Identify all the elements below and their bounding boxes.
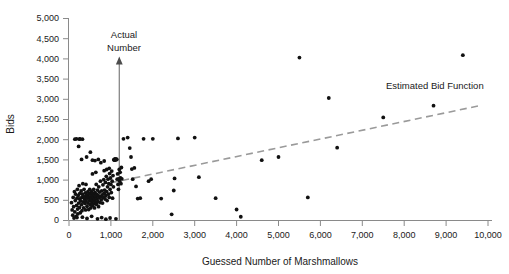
scatter-point (131, 177, 135, 181)
y-tick-label: 3,000 (36, 94, 59, 104)
y-tick-label: 4,000 (36, 54, 59, 64)
y-tick-label: 2,000 (36, 135, 59, 145)
scatter-point (306, 195, 310, 199)
scatter-point (381, 115, 385, 119)
scatter-point (277, 155, 281, 159)
x-axis-tick-marks (69, 221, 488, 227)
scatter-point (104, 181, 108, 185)
actual-number-label-line-1: Actual (111, 29, 137, 40)
scatter-point (97, 185, 101, 189)
scatter-point (93, 206, 97, 210)
scatter-point (239, 215, 243, 219)
scatter-point (85, 155, 89, 159)
scatter-point (102, 169, 106, 173)
y-tick-label: 500 (44, 195, 59, 205)
x-tick-label: 5,000 (267, 230, 290, 240)
y-tick-label: 3,500 (36, 74, 59, 84)
scatter-point (111, 174, 115, 178)
marshmallow-bids-scatter-chart: 05001,0001,5002,0002,5003,0003,5004,0004… (0, 0, 509, 274)
scatter-point (110, 169, 114, 173)
scatter-point (104, 217, 108, 221)
scatter-point (82, 187, 86, 191)
y-tick-label: 2,500 (36, 114, 59, 124)
scatter-point (197, 175, 201, 179)
scatter-point (90, 214, 94, 218)
scatter-point (151, 137, 155, 141)
scatter-point (118, 170, 122, 174)
x-tick-label: 3,000 (183, 230, 206, 240)
scatter-point (120, 177, 124, 181)
scatter-point (102, 159, 106, 163)
scatter-point (461, 53, 465, 57)
actual-number-label-line-2: Number (107, 42, 141, 53)
scatter-point (119, 166, 123, 170)
scatter-point (159, 197, 163, 201)
y-tick-label: 5,000 (36, 13, 59, 23)
x-tick-label: 9,000 (435, 230, 458, 240)
scatter-point (108, 216, 112, 220)
scatter-point (119, 182, 123, 186)
scatter-point (138, 196, 142, 200)
scatter-point (298, 56, 302, 60)
scatter-point (193, 136, 197, 140)
x-axis-tick-labels: 01,0002,0003,0004,0005,0006,0007,0008,00… (66, 230, 501, 240)
scatter-point (126, 136, 130, 140)
scatter-point (81, 215, 85, 219)
estimated-bid-function-line (111, 105, 482, 183)
scatter-point (93, 159, 97, 163)
scatter-point (101, 201, 105, 205)
scatter-point (96, 217, 100, 221)
scatter-point (173, 176, 177, 180)
scatter-point (92, 187, 96, 191)
scatter-point (129, 155, 133, 159)
scatter-point (117, 187, 121, 191)
scatter-point (77, 184, 81, 188)
scatter-point (108, 187, 112, 191)
scatter-point (107, 166, 111, 170)
y-axis-tick-marks (63, 19, 69, 221)
scatter-point (170, 212, 174, 216)
x-tick-label: 6,000 (309, 230, 332, 240)
x-tick-label: 7,000 (351, 230, 374, 240)
actual-number-arrowhead (116, 56, 123, 64)
scatter-point (71, 195, 75, 199)
scatter-point (99, 161, 103, 165)
chart-canvas: 05001,0001,5002,0002,5003,0003,5004,0004… (0, 0, 509, 274)
scatter-point (70, 201, 74, 205)
scatter-point (149, 177, 153, 181)
scatter-point (75, 216, 79, 220)
y-tick-label: 1,500 (36, 155, 59, 165)
scatter-point (132, 166, 136, 170)
scatter-point (107, 195, 111, 199)
x-axis-title: Guessed Number of Marshmallows (202, 256, 358, 267)
scatter-point (176, 136, 180, 140)
scatter-point (91, 172, 95, 176)
scatter-point (105, 199, 109, 203)
scatter-point (99, 179, 103, 183)
x-tick-label: 1,000 (100, 230, 123, 240)
scatter-point (96, 158, 100, 162)
scatter-point (94, 170, 98, 174)
scatter-point (110, 179, 114, 183)
scatter-points (70, 53, 465, 221)
scatter-point (214, 196, 218, 200)
scatter-point (235, 208, 239, 212)
y-tick-label: 0 (54, 215, 59, 225)
y-axis-title: Bids (5, 114, 16, 133)
scatter-point (112, 185, 116, 189)
scatter-point (84, 183, 88, 187)
scatter-point (81, 137, 85, 141)
scatter-point (128, 146, 132, 150)
scatter-point (97, 205, 101, 209)
estimated-bid-function-label: Estimated Bid Function (386, 80, 484, 91)
y-tick-label: 1,000 (36, 175, 59, 185)
scatter-point (327, 96, 331, 100)
x-tick-label: 8,000 (393, 230, 416, 240)
scatter-point (432, 104, 436, 108)
x-tick-label: 0 (66, 230, 71, 240)
scatter-point (134, 185, 138, 189)
scatter-point (88, 150, 92, 154)
scatter-point (122, 137, 126, 141)
y-axis-tick-labels: 05001,0001,5002,0002,5003,0003,5004,0004… (36, 13, 59, 225)
scatter-point (80, 158, 84, 162)
